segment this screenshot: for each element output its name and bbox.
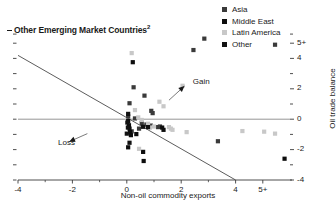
data-point-other	[146, 125, 150, 129]
y-axis-title: Oil trade balance	[327, 68, 336, 128]
data-point-latin-america	[133, 108, 137, 112]
data-point-latin-america	[152, 124, 156, 128]
data-point-asia	[216, 139, 220, 143]
x-tick-label: 0	[125, 185, 129, 194]
data-point-latin-america	[137, 147, 141, 151]
y-tick-label: -2	[297, 144, 304, 153]
annotation-gain: Gain	[193, 77, 210, 86]
data-point-middle-east	[126, 145, 130, 149]
chart-container: Other Emerging Market Countries2 Asia Mi…	[0, 0, 336, 209]
y-tick-label: 4	[297, 53, 301, 62]
data-point-asia	[132, 85, 136, 89]
y-tick-label: 5+	[297, 38, 306, 47]
data-point-middle-east	[141, 150, 145, 154]
x-tick-label: -2	[69, 185, 76, 194]
data-point-latin-america	[240, 129, 244, 133]
data-point-latin-america	[157, 100, 161, 104]
data-point-middle-east	[161, 128, 165, 132]
annotation-loss: Loss	[58, 138, 75, 147]
data-point-middle-east	[129, 133, 133, 137]
data-point-latin-america	[140, 118, 144, 122]
data-point-other	[125, 132, 129, 136]
data-point-latin-america	[273, 132, 277, 136]
chart-plot-area	[0, 0, 336, 209]
x-tick-label: -4	[14, 185, 21, 194]
data-point-asia	[273, 43, 277, 47]
y-tick-label: 0	[297, 114, 301, 123]
x-axis-title: Non-oil commodity exports	[0, 191, 336, 200]
data-point-middle-east	[282, 157, 286, 161]
data-point-asia	[127, 101, 131, 105]
data-point-latin-america	[170, 128, 174, 132]
data-point-asia	[142, 94, 146, 98]
data-point-middle-east	[131, 60, 135, 64]
y-tick-label: 2	[297, 83, 301, 92]
x-tick-label: 2	[179, 185, 183, 194]
data-point-other	[126, 125, 130, 129]
data-point-middle-east	[134, 132, 138, 136]
data-point-latin-america	[130, 51, 134, 55]
data-point-asia	[202, 37, 206, 41]
data-point-latin-america	[262, 130, 266, 134]
x-tick-label: 4	[233, 185, 237, 194]
data-point-other	[126, 112, 130, 116]
data-point-other	[141, 125, 145, 129]
data-point-asia	[137, 127, 141, 131]
data-point-asia	[151, 111, 155, 115]
y-tick-label: -4	[297, 175, 304, 184]
data-point-other	[127, 141, 131, 145]
x-tick-label: 5+	[258, 185, 267, 194]
data-point-latin-america	[185, 130, 189, 134]
data-point-asia	[191, 48, 195, 52]
data-point-middle-east	[142, 159, 146, 163]
data-point-latin-america	[161, 104, 165, 108]
data-point-other	[125, 120, 129, 124]
